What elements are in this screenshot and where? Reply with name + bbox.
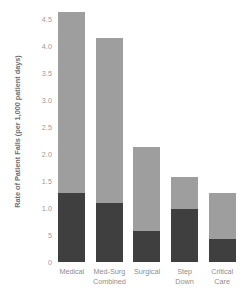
bar-segment-injurious[interactable] [171, 209, 198, 262]
y-axis-title: Rate of Patient Falls (per 1,000 patient… [9, 0, 25, 262]
y-axis-tick-label: 4.5 [26, 14, 52, 23]
bar-segment-noninjurious[interactable] [96, 38, 123, 203]
plot-area [53, 0, 241, 262]
y-axis-tick-labels: 051.01.52.02.53.03.54.04.5 [26, 0, 52, 262]
x-axis-tick-label-line: Step [177, 267, 192, 276]
stacked-bar[interactable] [171, 177, 198, 262]
y-axis-tick-label: 3.5 [26, 68, 52, 77]
bar-segment-injurious[interactable] [96, 203, 123, 262]
stacked-bar[interactable] [96, 38, 123, 262]
x-axis-tick-label: StepDown [166, 264, 204, 287]
bar-segment-injurious[interactable] [209, 239, 236, 262]
y-axis-tick-label: 1.0 [26, 203, 52, 212]
bar-slot [166, 0, 204, 262]
stacked-bar[interactable] [58, 12, 85, 262]
bar-segment-injurious[interactable] [133, 231, 160, 262]
x-axis-tick-label-line: Combined [91, 277, 129, 287]
bar-slot [128, 0, 166, 262]
bar-segment-noninjurious[interactable] [171, 177, 198, 209]
y-axis-tick-label: 2.5 [26, 122, 52, 131]
y-axis-tick-label: 4.0 [26, 41, 52, 50]
stacked-bar[interactable] [209, 193, 236, 262]
y-axis-title-label: Rate of Patient Falls (per 1,000 patient… [13, 55, 22, 208]
bar-segment-noninjurious[interactable] [133, 147, 160, 231]
bar-segment-injurious[interactable] [58, 193, 85, 262]
stacked-bar[interactable] [133, 147, 160, 262]
x-axis-tick-label: Med-SurgCombined [91, 264, 129, 287]
x-axis-tick-label-line: Critical [211, 267, 233, 276]
y-axis-tick-label: 5 [26, 230, 52, 239]
y-axis-tick-label: 3.0 [26, 95, 52, 104]
bar-slot [53, 0, 91, 262]
x-axis-tick-label: Surgical [128, 264, 166, 277]
bar-slot [203, 0, 241, 262]
x-axis-tick-label-line: Med-Surg [94, 267, 126, 276]
bars-group [53, 0, 241, 262]
bar-slot [91, 0, 129, 262]
x-axis-tick-label: CriticalCare [203, 264, 241, 287]
y-axis-tick-label: 1.5 [26, 176, 52, 185]
y-axis-tick-label: 0 [26, 258, 52, 267]
patient-falls-stacked-bar-chart: Rate of Patient Falls (per 1,000 patient… [0, 0, 243, 302]
bar-segment-noninjurious[interactable] [58, 12, 85, 193]
bar-segment-noninjurious[interactable] [209, 193, 236, 238]
x-axis-tick-label: Medical [53, 264, 91, 277]
x-axis-tick-label-line: Down [166, 277, 204, 287]
x-axis-tick-label-line: Medical [59, 267, 84, 276]
x-axis-tick-label-line: Care [203, 277, 241, 287]
y-axis-tick-label: 2.0 [26, 149, 52, 158]
x-axis-tick-labels: MedicalMed-SurgCombinedSurgicalStepDownC… [53, 264, 241, 302]
x-axis-tick-label-line: Surgical [134, 267, 160, 276]
